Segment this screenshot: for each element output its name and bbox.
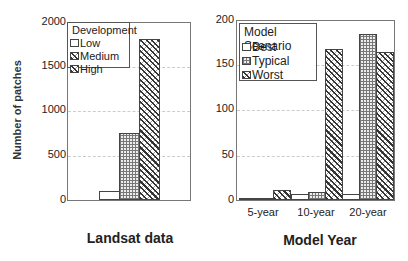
- legend-title: Model Scenario: [242, 25, 312, 40]
- y-tick-200: 200: [198, 13, 234, 25]
- gridline: [68, 111, 190, 112]
- landsat-plot-area: Development Low Medium High: [67, 22, 191, 201]
- model-plot-area: Model Scenario Best Typical Worst: [236, 20, 395, 201]
- swatch-high: [70, 65, 79, 73]
- x-category-10-year: 10-year: [291, 206, 341, 218]
- x-category-5-year: 5-year: [238, 206, 288, 218]
- legend-item-medium: Medium: [70, 49, 125, 62]
- bar-5yr-typical: [256, 198, 274, 200]
- landsat-x-title: Landsat data: [60, 230, 200, 246]
- swatch-low: [70, 39, 79, 47]
- y-tick-2000: 2000: [30, 15, 66, 27]
- y-tick-500: 500: [30, 148, 66, 160]
- y-tick-1500: 1500: [30, 59, 66, 71]
- legend-item-worst: Worst: [242, 68, 312, 82]
- swatch-medium: [70, 52, 79, 60]
- bar-low: [99, 191, 120, 200]
- swatch-worst: [242, 71, 251, 79]
- y-tick-50: 50: [198, 148, 234, 160]
- y-tick-150: 150: [198, 57, 234, 69]
- y-tick-0: 0: [198, 193, 234, 205]
- bar-medium: [119, 133, 140, 200]
- bar-10yr-typical: [308, 192, 326, 200]
- bar-5yr-worst: [273, 190, 291, 200]
- bar-10yr-best: [291, 194, 309, 200]
- development-legend: Development Low Medium High: [67, 22, 130, 68]
- x-category-20-year: 20-year: [343, 206, 393, 218]
- legend-title: Development: [70, 24, 125, 36]
- y-tick-0: 0: [30, 193, 66, 205]
- model-year-x-title: Model Year: [250, 232, 390, 248]
- bar-5yr-best: [239, 198, 257, 200]
- y-axis-label: Number of patches: [11, 55, 23, 165]
- swatch-typical: [242, 57, 251, 65]
- legend-item-low: Low: [70, 36, 125, 49]
- swatch-best: [242, 43, 251, 51]
- y-tick-1000: 1000: [30, 103, 66, 115]
- bar-20yr-best: [342, 194, 360, 200]
- bar-high: [139, 39, 160, 200]
- scenario-legend: Model Scenario Best Typical Worst: [239, 23, 317, 81]
- bar-20yr-worst: [376, 52, 394, 200]
- y-tick-100: 100: [198, 102, 234, 114]
- legend-item-high: High: [70, 62, 125, 75]
- bar-10yr-worst: [325, 49, 343, 200]
- legend-item-typical: Typical: [242, 54, 312, 68]
- bar-20yr-typical: [359, 34, 377, 200]
